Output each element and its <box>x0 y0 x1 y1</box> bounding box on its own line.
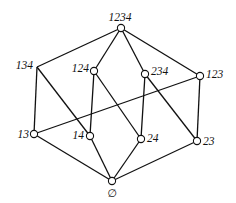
node-label-13: 13 <box>18 128 30 140</box>
node-13 <box>30 130 37 137</box>
hasse-diagram: 123413412423412313142423∅ <box>0 0 236 203</box>
edge-234-23 <box>145 74 197 141</box>
node-empty <box>108 177 115 184</box>
node-label-23: 23 <box>203 135 215 147</box>
node-1234 <box>117 24 124 31</box>
node-label-14: 14 <box>73 129 85 141</box>
node-23 <box>193 137 200 144</box>
edge-123-23 <box>197 76 200 141</box>
labels-group: 123413412423412313142423∅ <box>16 11 224 200</box>
node-label-empty: ∅ <box>107 187 117 200</box>
node-label-1234: 1234 <box>109 11 132 23</box>
node-14 <box>86 132 93 139</box>
edge-134-13 <box>34 67 37 134</box>
node-123 <box>196 72 203 79</box>
node-124 <box>90 67 97 74</box>
node-label-234: 234 <box>151 65 169 77</box>
edges-group <box>34 28 200 181</box>
edge-134-14 <box>37 67 90 136</box>
node-label-24: 24 <box>147 132 159 144</box>
node-234 <box>141 70 148 77</box>
node-label-124: 124 <box>72 62 90 74</box>
edge-23-empty <box>112 141 197 181</box>
node-label-134: 134 <box>16 59 34 71</box>
edge-123-13 <box>34 76 200 134</box>
edge-124-14 <box>90 71 94 136</box>
edge-234-24 <box>141 74 145 139</box>
node-label-123: 123 <box>206 68 224 80</box>
node-24 <box>137 135 144 142</box>
